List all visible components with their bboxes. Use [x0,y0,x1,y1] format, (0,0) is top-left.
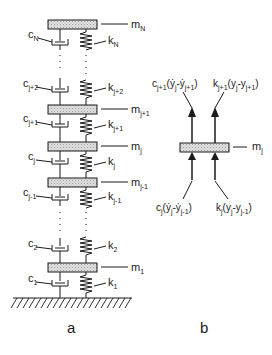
damper-c2 [52,238,68,263]
damper-c1 [52,272,68,298]
caption-b: b [200,319,208,336]
label-fb-mj: mj [252,140,263,155]
spring-kj-1 [80,187,92,208]
mass-block-mj-1 [48,178,97,187]
damper-cj+2 [52,78,68,105]
label-cj: cj [28,150,36,165]
label-kN: kN [108,34,119,48]
fixed-ground [11,298,132,308]
force-label-top-damper: cj+1(ẏj-ẏj+1) [152,78,198,92]
spring-k1 [80,272,92,298]
label-kj+2: kj+2 [108,81,123,96]
label-kj+1: kj+1 [108,118,123,133]
multi-dof-diagram: mN mj+1 mj mj-1 m1 cN cj+2 cj+1 cj cj-1 … [0,0,272,355]
force-label-bottom-spring: kj(yj-yj-1) [216,202,252,216]
label-cj+2: cj+2 [23,77,38,92]
damper-cj-1 [52,187,68,206]
force-arrow-bottom-spring [211,152,219,180]
spring-k2 [80,237,92,263]
panel-b [180,92,247,199]
damper-cN [52,29,68,50]
mass-block-m1 [48,263,97,272]
label-c1: c1 [28,272,38,286]
label-cj+1: cj+1 [23,112,38,127]
damper-cj+1 [52,114,68,142]
label-cN: cN [28,28,39,42]
label-kj-1: kj-1 [108,190,121,205]
spring-kN [80,29,92,50]
spring-kj [80,151,92,178]
label-kj: kj [108,155,116,170]
force-arrow-bottom-damper [188,152,196,180]
label-mj: mj [131,140,142,155]
spring-kj+2 [80,80,92,105]
spring-kj+1 [80,114,92,142]
label-m1: m1 [131,261,144,275]
label-k2: k2 [108,239,118,253]
panel-b-labels: mj cj+1(ẏj-ẏj+1) kj+1(yj-yj+1) cj(ẏj-ẏj-… [152,78,263,336]
label-mj+1: mj+1 [131,103,150,118]
label-k1: k1 [108,276,118,290]
label-mj-1: mj-1 [131,176,148,191]
mass-block-mj [48,142,97,151]
label-c2: c2 [28,237,38,251]
mass-block-mN [48,20,97,29]
damper-cj [52,151,68,178]
label-cj-1: cj-1 [23,186,36,201]
label-mN: mN [131,18,145,32]
force-arrow-top-spring [211,107,219,143]
force-label-top-spring: kj+1(yj-yj+1) [213,78,259,92]
free-body-mass-mj [180,143,229,152]
mass-block-mj+1 [48,105,97,114]
force-label-bottom-damper: cj(ẏj-ẏj-1) [156,202,192,216]
force-arrow-top-damper [188,107,196,143]
caption-a: a [67,319,76,336]
